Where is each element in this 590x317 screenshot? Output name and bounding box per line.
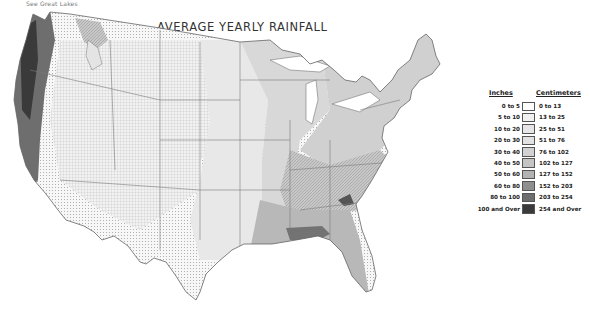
legend-inches-range: 40 to 50 — [494, 160, 520, 166]
legend-cm-range: 76 to 102 — [539, 149, 569, 155]
legend-inches-range: 100 and Over — [478, 206, 520, 212]
legend-swatch — [522, 113, 535, 123]
legend-row: 10 to 2025 to 51 — [470, 124, 590, 135]
legend-row: 30 to 4076 to 102 — [470, 147, 590, 158]
legend-inches-range: 10 to 20 — [494, 126, 520, 132]
legend-inches-range: 60 to 80 — [494, 183, 520, 189]
legend-swatch — [522, 158, 535, 168]
legend-row: 80 to 100203 to 254 — [470, 192, 590, 203]
legend-row: 100 and Over254 and Over — [470, 204, 590, 215]
legend-cm-range: 203 to 254 — [539, 194, 573, 200]
legend-inches-range: 0 to 5 — [502, 103, 520, 109]
legend-cm-header: Centimeters — [536, 89, 581, 97]
legend-swatch — [522, 147, 535, 157]
legend-cm-range: 102 to 127 — [539, 160, 573, 166]
legend-inches-range: 20 to 30 — [494, 137, 520, 143]
legend-inches-range: 30 to 40 — [494, 149, 520, 155]
legend-inches-range: 80 to 100 — [490, 194, 520, 200]
legend-row: 60 to 80152 to 203 — [470, 181, 590, 192]
legend-cm-range: 254 and Over — [539, 206, 581, 212]
legend-row: 50 to 60127 to 152 — [470, 169, 590, 180]
legend-cm-range: 13 to 25 — [539, 114, 565, 120]
legend-cm-range: 0 to 13 — [539, 103, 561, 109]
legend-inches-range: 5 to 10 — [498, 114, 520, 120]
legend-row: 20 to 3051 to 76 — [470, 135, 590, 146]
legend-cm-range: 152 to 203 — [539, 183, 573, 189]
legend-row: 0 to 50 to 13 — [470, 101, 590, 112]
legend-swatch — [522, 102, 535, 112]
legend-cm-range: 127 to 152 — [539, 171, 573, 177]
legend-inches-header: Inches — [489, 89, 513, 97]
legend-cm-range: 25 to 51 — [539, 126, 565, 132]
rainfall-legend: Inches Centimeters 0 to 50 to 135 to 101… — [470, 87, 590, 215]
legend-inches-range: 50 to 60 — [494, 171, 520, 177]
legend-row: 40 to 50102 to 127 — [470, 158, 590, 169]
legend-swatch — [522, 193, 535, 203]
legend-swatch — [522, 136, 535, 146]
legend-swatch — [522, 204, 535, 214]
legend-swatch — [522, 181, 535, 191]
legend-swatch — [522, 170, 535, 180]
legend-cm-range: 51 to 76 — [539, 137, 565, 143]
legend-row: 5 to 1013 to 25 — [470, 112, 590, 123]
legend-swatch — [522, 124, 535, 134]
us-rainfall-map — [0, 0, 470, 317]
legend-header: Inches Centimeters — [470, 87, 590, 101]
